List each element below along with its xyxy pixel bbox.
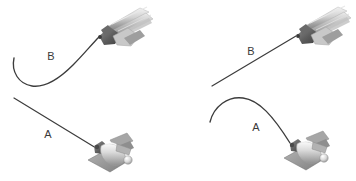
instrument-ball-tip: [124, 156, 132, 164]
instrument-wire-port: [290, 143, 294, 147]
wire-label-left-a: A: [44, 128, 52, 140]
figure-root: B A: [0, 0, 356, 181]
wire-label-left-b: B: [47, 50, 54, 62]
figure-canvas: B A: [0, 0, 356, 181]
instrument-wire-port: [95, 145, 99, 149]
instrument-ball-tip: [320, 154, 328, 162]
wire-label-right-b: B: [247, 45, 254, 57]
wire-label-right-a: A: [252, 121, 260, 133]
instrument-wire-port: [98, 35, 102, 39]
instrument-wire-port: [296, 34, 300, 38]
